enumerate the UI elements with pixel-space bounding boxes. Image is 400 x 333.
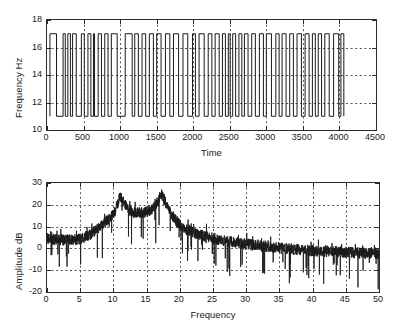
spectrum-panel: Amplitude dB 05101520253035404550 -20-10… <box>0 166 400 333</box>
fsk-x-tick: 3000 <box>255 132 275 142</box>
fsk-plot-area <box>46 19 377 131</box>
spectrum-x-tick: 20 <box>174 294 184 304</box>
spectrum-x-tick: 50 <box>373 294 383 304</box>
spectrum-y-tick: 0 <box>0 242 42 252</box>
fsk-x-tick: 2000 <box>182 132 202 142</box>
spectrum-x-tick: 0 <box>43 294 48 304</box>
spectrum-y-tick: 10 <box>0 221 42 231</box>
spectrum-y-axis-label: Amplitude dB <box>13 232 24 290</box>
fsk-x-tick: 4000 <box>328 132 348 142</box>
fsk-y-tick: 18 <box>0 14 42 24</box>
spectrum-plot-area <box>46 182 380 293</box>
spectrum-x-tick: 25 <box>207 294 217 304</box>
fsk-x-tick: 2500 <box>219 132 239 142</box>
spectrum-x-tick: 45 <box>340 294 350 304</box>
fsk-x-tick: 3500 <box>292 132 312 142</box>
fsk-signal-canvas <box>47 20 378 132</box>
fsk-time-panel: Frequency Hz 050010001500200025003000350… <box>0 0 400 166</box>
fsk-y-tick: 12 <box>0 97 42 107</box>
spectrum-signal-canvas <box>47 183 381 294</box>
fsk-x-axis-label: Time <box>46 147 377 158</box>
fsk-y-tick: 14 <box>0 69 42 79</box>
spectrum-x-axis-label: Frequency <box>46 309 380 320</box>
spectrum-x-tick: 5 <box>77 294 82 304</box>
fsk-y-tick: 10 <box>0 124 42 134</box>
spectrum-y-tick: -20 <box>0 286 42 296</box>
fsk-x-tick: 1000 <box>109 132 129 142</box>
spectrum-y-tick: 20 <box>0 199 42 209</box>
spectrum-x-tick: 30 <box>240 294 250 304</box>
spectrum-x-tick: 10 <box>107 294 117 304</box>
fsk-y-axis-label: Frequency Hz <box>13 58 24 118</box>
fsk-x-tick: 1500 <box>146 132 166 142</box>
fsk-y-tick: 16 <box>0 42 42 52</box>
fsk-x-tick: 4500 <box>365 132 385 142</box>
spectrum-y-tick: 30 <box>0 177 42 187</box>
spectrum-x-tick: 15 <box>141 294 151 304</box>
spectrum-y-tick: -10 <box>0 264 42 274</box>
fsk-x-tick: 500 <box>75 132 90 142</box>
spectrum-x-tick: 35 <box>273 294 283 304</box>
spectrum-x-tick: 40 <box>307 294 317 304</box>
fsk-x-tick: 0 <box>43 132 48 142</box>
figure-container: Frequency Hz 050010001500200025003000350… <box>0 0 400 333</box>
